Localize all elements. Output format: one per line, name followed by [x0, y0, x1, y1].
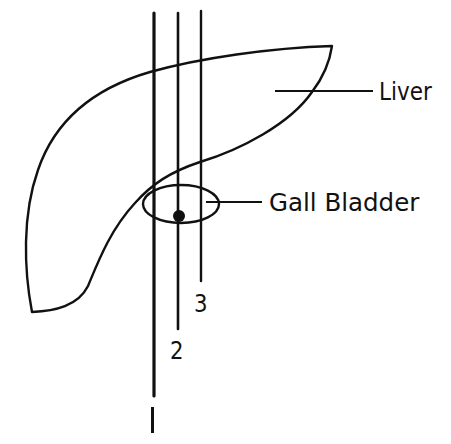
line-label-1 [151, 407, 154, 433]
liver-label: Liver [379, 79, 432, 104]
liver-gallbladder-diagram [0, 0, 451, 444]
line-label-2: 2 [170, 338, 184, 363]
gall-bladder-label: Gall Bladder [269, 190, 419, 215]
line-label-3: 3 [194, 291, 208, 316]
